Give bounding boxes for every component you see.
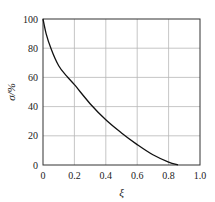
x-tick-label: 0.6 — [131, 170, 144, 181]
y-tick-label: 0 — [33, 160, 38, 171]
x-tick-label: 1.0 — [194, 170, 207, 181]
plot-frame — [43, 19, 200, 165]
y-axis-ticks: 020406080100 — [23, 14, 38, 171]
y-axis-label: σ/% — [5, 83, 17, 101]
x-tick-label: 0 — [41, 170, 46, 181]
y-tick-label: 80 — [28, 43, 38, 54]
grid-lines — [43, 19, 200, 165]
x-tick-label: 0.8 — [162, 170, 175, 181]
x-axis-ticks: 00.20.40.60.81.0 — [41, 170, 207, 181]
sigma-xi-chart: 00.20.40.60.81.0 020406080100 ξ σ/% — [0, 0, 215, 202]
x-tick-label: 0.2 — [68, 170, 81, 181]
y-tick-label: 40 — [28, 101, 38, 112]
y-tick-label: 20 — [28, 130, 38, 141]
sigma-curve — [43, 19, 178, 165]
x-axis-label: ξ — [119, 186, 124, 199]
x-tick-label: 0.4 — [100, 170, 113, 181]
y-tick-label: 100 — [23, 14, 38, 25]
y-tick-label: 60 — [28, 72, 38, 83]
